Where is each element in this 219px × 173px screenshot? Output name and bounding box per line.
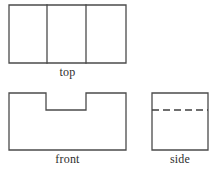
front-view-outline (9, 93, 126, 150)
view-side (152, 93, 208, 150)
view-top (9, 5, 126, 63)
views-canvas (0, 0, 219, 173)
orthographic-drawing: top front side (0, 0, 219, 173)
view-label-top: top (9, 66, 126, 79)
top-view-outline (9, 5, 126, 63)
view-label-front: front (9, 153, 126, 166)
side-view-outline (152, 93, 208, 150)
view-front (9, 93, 126, 150)
view-label-side: side (152, 153, 208, 166)
